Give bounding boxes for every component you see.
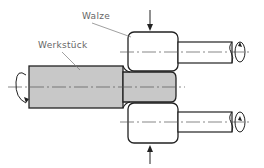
lower-force-arrow-icon [147,145,153,164]
upper-roller-shaft [178,42,232,63]
workpiece-rotation-icon [16,73,29,103]
upper-roller [128,32,178,71]
roller-label: Walze [82,11,110,21]
upper-force-arrow-icon [147,10,153,31]
roll-forming-diagram: Walze Werkstück [0,0,264,168]
workpiece-label: Werkstück [38,40,88,50]
roller-leader-line [92,23,131,37]
lower-roller [128,103,178,143]
